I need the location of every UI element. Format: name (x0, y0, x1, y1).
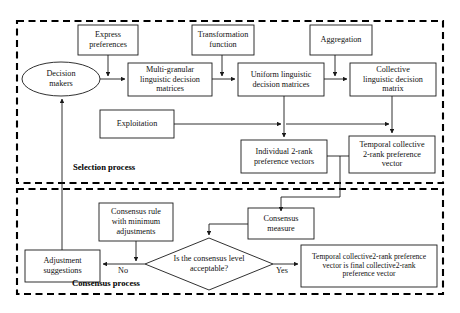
node-temporal-collective (349, 136, 435, 173)
node-multi-granular (128, 63, 212, 96)
section-title-selection-process: Selection process (73, 162, 135, 172)
section-title-consensus-process: Consensus process (72, 278, 140, 288)
flowchart-graphics (0, 0, 460, 313)
node-aggregation (310, 25, 372, 55)
node-uniform-linguistic (238, 63, 324, 96)
node-consensus-measure (248, 208, 314, 239)
edge-temporal-to-junction (340, 156, 349, 197)
node-decision-makers (22, 62, 100, 96)
edge-label-yes: Yes (276, 266, 288, 275)
node-exploitation (100, 110, 174, 138)
edge-consensus-measure-to-diamond (209, 224, 248, 235)
flowchart-canvas: Decision makers Express preferences Tran… (0, 0, 460, 313)
node-express-preferences (78, 25, 138, 55)
node-collective-linguistic (350, 63, 436, 96)
node-consensus-rule (99, 203, 173, 241)
node-individual-2rank (241, 140, 327, 173)
node-final-vector (301, 245, 437, 287)
node-decision-diamond (145, 238, 273, 290)
node-transformation-function (192, 25, 254, 55)
edge-label-no: No (118, 266, 128, 275)
